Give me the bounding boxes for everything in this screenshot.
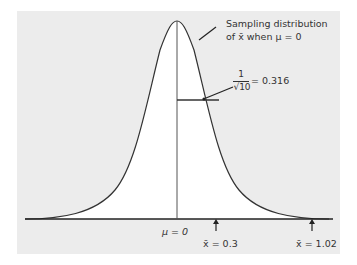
sd-denominator: √10 bbox=[232, 82, 252, 92]
title-line-1: Sampling distribution bbox=[226, 18, 328, 29]
title-pointer bbox=[199, 27, 216, 40]
arrow-icon-xbar-102 bbox=[309, 219, 315, 231]
sd-numerator: 1 bbox=[234, 69, 248, 79]
sd-pointer bbox=[206, 87, 233, 98]
mu-label: μ = 0 bbox=[162, 226, 188, 237]
xbar-102-label: x̄ = 1.02 bbox=[296, 238, 337, 249]
arrow-icon-xbar-03 bbox=[213, 219, 219, 231]
xbar-03-label: x̄ = 0.3 bbox=[203, 238, 238, 249]
title-line-2: of x̄ when μ = 0 bbox=[226, 31, 302, 42]
sd-value: = 0.316 bbox=[251, 75, 289, 86]
